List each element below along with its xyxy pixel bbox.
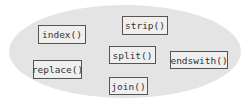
method-label: replace() xyxy=(32,64,83,75)
method-box-index: index() xyxy=(38,25,86,44)
method-box-join: join() xyxy=(109,77,148,95)
method-label: index() xyxy=(42,29,82,40)
method-label: join() xyxy=(111,81,145,92)
method-label: split() xyxy=(112,50,152,61)
method-box-endswith: endswith() xyxy=(170,51,228,69)
method-label: endswith() xyxy=(170,55,227,66)
method-box-replace: replace() xyxy=(33,60,82,79)
method-box-strip: strip() xyxy=(122,16,168,35)
method-box-split: split() xyxy=(109,46,156,64)
method-label: strip() xyxy=(125,20,165,31)
